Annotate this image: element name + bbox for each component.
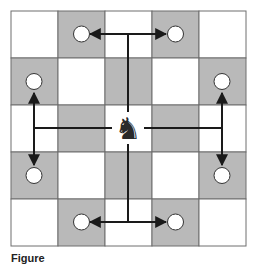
target-circle-icon xyxy=(26,74,42,90)
caption-label: Figure xyxy=(11,252,45,264)
knight-moves-diagram: ♞ xyxy=(0,0,256,252)
board-square xyxy=(152,152,199,199)
board-square xyxy=(152,58,199,105)
board-square xyxy=(199,199,246,246)
target-circle-icon xyxy=(214,168,230,184)
board-square xyxy=(58,58,105,105)
knight-icon: ♞ xyxy=(115,111,142,146)
target-circle-icon xyxy=(74,214,90,230)
board-square xyxy=(11,199,58,246)
target-circle-icon xyxy=(168,26,184,42)
figure-caption: Figure xyxy=(11,252,251,266)
target-circle-icon xyxy=(26,168,42,184)
target-circle-icon xyxy=(74,26,90,42)
target-circle-icon xyxy=(214,74,230,90)
target-circle-icon xyxy=(168,214,184,230)
board-square xyxy=(58,152,105,199)
board-square xyxy=(199,11,246,58)
board-square xyxy=(11,11,58,58)
knight-piece: ♞ xyxy=(114,111,142,146)
